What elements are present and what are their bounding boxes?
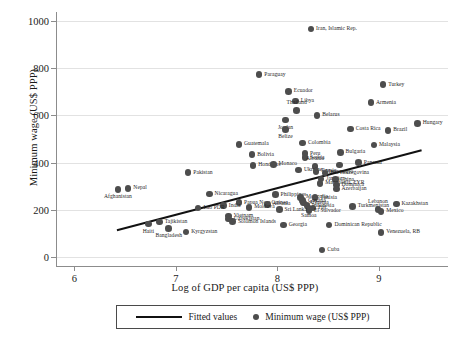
scatter-point <box>246 204 253 211</box>
scatter-point <box>336 162 343 169</box>
x-tick-label: 9 <box>376 273 381 284</box>
x-tick-label: 6 <box>72 273 77 284</box>
point-label: Paraguay <box>264 72 285 78</box>
x-tick-label: 8 <box>275 273 280 284</box>
point-label: Cuba <box>327 247 339 253</box>
scatter-point <box>378 229 385 236</box>
scatter-point <box>282 126 289 133</box>
point-label: Dominican Republic <box>334 222 381 228</box>
point-label: Lao PDR <box>203 205 224 211</box>
scatter-point <box>393 201 400 208</box>
scatter-point <box>285 88 292 95</box>
scatter-point <box>368 99 375 106</box>
y-tick-label: 400 <box>33 157 49 168</box>
point-label: Mexico <box>386 209 403 215</box>
point-label: Belarus <box>322 113 339 119</box>
point-label: Azerbaijan <box>341 186 366 192</box>
scatter-point <box>385 127 392 134</box>
x-axis-line <box>56 266 448 267</box>
scatter-point <box>378 208 385 215</box>
y-tick-label: 600 <box>33 110 49 121</box>
y-tick-label: 0 <box>44 251 49 262</box>
point-label: Pakistan <box>193 170 212 176</box>
scatter-point <box>314 112 321 119</box>
y-tick-label: 200 <box>33 204 49 215</box>
scatter-point <box>276 206 283 213</box>
scatter-point <box>145 221 152 228</box>
scatter-point <box>115 186 122 193</box>
point-label: Bangladesh <box>155 233 182 239</box>
scatter-point <box>317 180 324 187</box>
point-label: Solomon Islands <box>238 219 276 225</box>
point-label: Bulgaria <box>346 150 366 156</box>
point-label: Armenia <box>376 100 396 106</box>
point-label: Kyrgyzstan <box>191 229 217 235</box>
scatter-point <box>349 203 356 210</box>
legend-item-minimum-wage: Minimum wage (US$ PPP) <box>253 312 369 322</box>
point-label: India <box>229 203 241 209</box>
x-tick-mark <box>176 266 177 271</box>
scatter-point <box>293 107 300 114</box>
circle-swatch-icon <box>253 314 259 320</box>
point-label: Moldova <box>254 205 275 211</box>
y-tick-label: 1000 <box>28 16 49 27</box>
point-label: Tajikistan <box>165 219 187 225</box>
scatter-point <box>280 222 287 229</box>
point-label: Monaco <box>279 162 298 168</box>
point-label: Venezuela, RB <box>386 230 420 236</box>
point-label: Bolivia <box>257 152 274 158</box>
point-label: El Salvador <box>314 208 341 214</box>
point-label: Guatemala <box>244 142 269 148</box>
x-tick-label: 7 <box>173 273 178 284</box>
point-label: Kazakhstan <box>401 201 428 207</box>
chart-legend: Fitted values Minimum wage (US$ PPP) <box>116 305 390 329</box>
scatter-point <box>313 168 320 175</box>
legend-item-fitted-values: Fitted values <box>136 312 237 322</box>
x-tick-mark <box>277 266 278 271</box>
legend-label-fitted-values: Fitted values <box>188 312 237 322</box>
scatter-point <box>355 159 362 166</box>
line-swatch-icon <box>136 316 182 318</box>
scatter-point <box>236 141 243 148</box>
point-label: Haiti <box>143 229 154 235</box>
scatter-point <box>249 151 256 158</box>
point-label: Iran, Islamic Rep. <box>316 26 357 32</box>
scatter-point <box>165 225 172 232</box>
point-label: Turkey <box>388 82 404 88</box>
point-label: Brazil <box>393 128 407 134</box>
scatter-point <box>250 162 257 169</box>
point-label: Belize <box>278 134 293 140</box>
plot-area: 02004006008001000 6789 Iran, Islamic Rep… <box>56 12 448 266</box>
scatter-point <box>337 149 344 156</box>
scatter-point <box>156 219 163 226</box>
scatter-point <box>272 191 279 198</box>
point-label: Georgia <box>289 222 307 228</box>
point-label: Afghanistan <box>104 194 132 200</box>
point-label: Albania <box>306 156 324 162</box>
x-tick-mark <box>74 266 75 271</box>
chart-figure: Minimum wage (US$ PPP) Log of GDP per ca… <box>0 0 458 342</box>
point-label: Panama <box>364 160 382 166</box>
x-axis-title: Log of GDP per capita (US$ PPP) <box>45 282 445 293</box>
point-label: Lebanon <box>368 200 388 206</box>
point-label: Nepal <box>133 186 147 192</box>
x-tick-mark <box>379 266 380 271</box>
point-label: Thailand <box>287 101 307 107</box>
point-label: Colombia <box>308 140 330 146</box>
point-label: Nicaragua <box>215 191 238 197</box>
scatter-point <box>414 120 421 127</box>
point-label: Malaysia <box>379 142 400 148</box>
scatter-point <box>333 186 340 193</box>
point-label: Sri Lanka <box>285 207 307 213</box>
scatter-point <box>270 161 277 168</box>
scatter-point <box>206 191 213 198</box>
point-label: Costa Rica <box>356 126 381 132</box>
point-label: Hungary <box>423 121 443 127</box>
y-tick-label: 800 <box>33 63 49 74</box>
legend-label-minimum-wage: Minimum wage (US$ PPP) <box>265 312 369 322</box>
scatter-point <box>125 185 132 192</box>
point-label: Ecuador <box>294 89 313 95</box>
